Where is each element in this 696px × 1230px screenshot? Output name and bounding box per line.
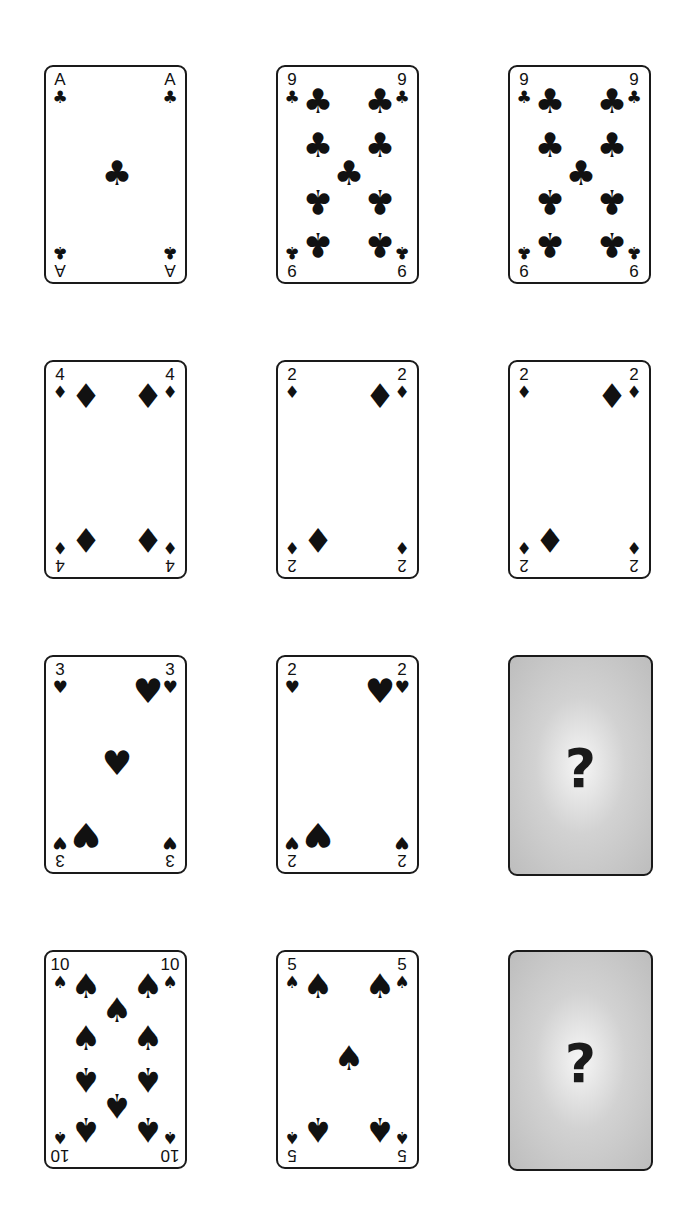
club-icon: ♣ [530,185,570,219]
diamond-icon: ♦ [66,523,106,557]
heart-icon: ♥ [50,679,70,696]
diamond-icon: ♦ [592,379,632,413]
card-2-of-hearts[interactable]: 2♥2♥2♥2♥♥♥ [276,655,419,874]
question-mark-icon: ? [510,1032,651,1095]
spade-icon: ♠ [360,1113,400,1147]
rank-label: 2 [282,366,302,383]
corner-index: 2♦ [624,536,644,574]
corner-index: 2♦ [282,366,302,404]
card-face-down[interactable]: ? [508,655,653,876]
card-9-of-clubs[interactable]: 9♣9♣9♣9♣♣♣♣♣♣♣♣♣♣ [276,65,419,284]
card-4-of-diamonds[interactable]: 4♦4♦4♦4♦♦♦♦♦ [44,360,187,579]
rank-label: 2 [282,661,302,678]
club-icon: ♣ [160,89,180,106]
card-2-of-diamonds[interactable]: 2♦2♦2♦2♦♦♦ [508,360,651,579]
diamond-icon: ♦ [530,523,570,557]
spade-icon: ♠ [298,1113,338,1147]
rank-label: 5 [392,1147,412,1164]
rank-label: 9 [514,262,534,279]
diamond-icon: ♦ [282,384,302,401]
card-9-of-clubs[interactable]: 9♣9♣9♣9♣♣♣♣♣♣♣♣♣♣ [508,65,651,284]
rank-label: 2 [392,852,412,869]
club-icon: ♣ [592,228,632,262]
spade-icon: ♠ [128,1113,168,1147]
spade-icon: ♠ [298,969,338,1003]
spade-icon: ♠ [360,969,400,1003]
rank-label: 2 [514,366,534,383]
rank-label: 10 [50,1147,70,1164]
rank-label: A [160,262,180,279]
rank-label: A [50,262,70,279]
diamond-icon: ♦ [624,539,644,556]
rank-label: 3 [50,661,70,678]
club-icon: ♣ [97,156,137,190]
club-icon: ♣ [530,228,570,262]
spade-icon: ♠ [128,1021,168,1055]
heart-icon: ♥ [66,818,106,852]
rank-label: 2 [282,557,302,574]
diamond-icon: ♦ [392,539,412,556]
heart-icon: ♥ [298,818,338,852]
rank-label: 5 [282,1147,302,1164]
rank-label: 10 [160,1147,180,1164]
corner-index: 3♥ [50,661,70,699]
heart-icon: ♥ [360,674,400,708]
diamond-icon: ♦ [66,379,106,413]
club-icon: ♣ [360,84,400,118]
corner-index: 3♥ [160,831,180,869]
heart-icon: ♥ [97,746,137,780]
corner-index: A♣ [160,241,180,279]
spade-icon: ♠ [66,1113,106,1147]
diamond-icon: ♦ [128,379,168,413]
heart-icon: ♥ [282,679,302,696]
rank-label: 2 [392,557,412,574]
rank-label: 4 [160,557,180,574]
spade-icon: ♠ [329,1041,369,1075]
club-icon: ♣ [298,228,338,262]
club-icon: ♣ [592,84,632,118]
rank-label: 2 [282,852,302,869]
corner-index: 2♦ [514,366,534,404]
corner-index: 2♥ [392,831,412,869]
spade-icon: ♠ [66,1021,106,1055]
question-mark-icon: ? [510,737,651,800]
card-2-of-diamonds[interactable]: 2♦2♦2♦2♦♦♦ [276,360,419,579]
rank-label: 2 [514,557,534,574]
heart-icon: ♥ [160,834,180,851]
club-icon: ♣ [360,228,400,262]
diamond-icon: ♦ [514,384,534,401]
card-5-of-spades[interactable]: 5♠5♠5♠5♠♠♠♠♠♠ [276,950,419,1169]
corner-index: 2♥ [282,661,302,699]
rank-label: A [160,71,180,88]
corner-index: A♣ [50,241,70,279]
rank-label: 3 [160,852,180,869]
rank-label: 9 [624,262,644,279]
heart-icon: ♥ [128,674,168,708]
club-icon: ♣ [360,185,400,219]
club-icon: ♣ [592,185,632,219]
club-icon: ♣ [530,84,570,118]
corner-index: A♣ [160,71,180,109]
rank-label: A [50,71,70,88]
rank-label: 9 [282,262,302,279]
rank-label: 9 [392,262,412,279]
corner-index: 2♦ [392,536,412,574]
rank-label: 3 [50,852,70,869]
rank-label: 4 [50,557,70,574]
corner-index: A♣ [50,71,70,109]
club-icon: ♣ [298,185,338,219]
diamond-icon: ♦ [128,523,168,557]
club-icon: ♣ [50,244,70,261]
heart-icon: ♥ [392,834,412,851]
club-icon: ♣ [160,244,180,261]
rank-label: 2 [624,557,644,574]
card-3-of-hearts[interactable]: 3♥3♥3♥3♥♥♥♥ [44,655,187,874]
card-10-of-spades[interactable]: 10♠10♠10♠10♠♠♠♠♠♠♠♠♠♠♠ [44,950,187,1169]
card-a-of-clubs[interactable]: A♣A♣A♣A♣♣ [44,65,187,284]
club-icon: ♣ [50,89,70,106]
club-icon: ♣ [298,84,338,118]
card-face-down[interactable]: ? [508,950,653,1171]
diamond-icon: ♦ [360,379,400,413]
diamond-icon: ♦ [298,523,338,557]
